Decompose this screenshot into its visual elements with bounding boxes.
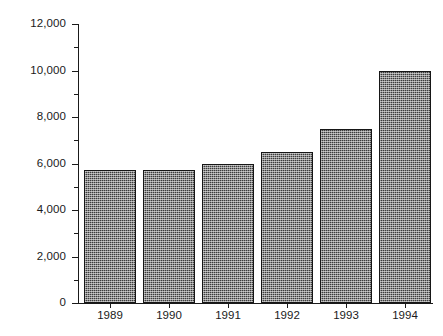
y-axis-tick xyxy=(72,303,79,304)
bar xyxy=(379,71,431,304)
y-axis-tick-label: 12,000 xyxy=(8,17,66,29)
bar xyxy=(143,170,195,303)
bar-series xyxy=(79,24,433,303)
x-axis-tick xyxy=(405,303,406,308)
x-axis-tick xyxy=(287,303,288,308)
bar xyxy=(320,129,372,303)
y-axis-tick-label: 2,000 xyxy=(8,250,66,262)
y-axis-tick xyxy=(72,24,79,25)
y-axis-tick-label: 8,000 xyxy=(8,110,66,122)
x-axis-tick-label: 1993 xyxy=(316,309,376,321)
y-axis-tick xyxy=(72,210,79,211)
x-axis-tick xyxy=(169,303,170,308)
y-axis-tick xyxy=(72,164,79,165)
y-axis-tick-label: 0 xyxy=(8,296,66,308)
x-axis-tick-label: 1994 xyxy=(375,309,435,321)
y-axis-tick xyxy=(72,117,79,118)
bar-chart: 02,0004,0006,0008,00010,00012,000 198919… xyxy=(0,0,443,336)
x-axis-tick xyxy=(346,303,347,308)
x-axis-tick xyxy=(110,303,111,308)
x-axis-tick xyxy=(228,303,229,308)
x-axis-tick-label: 1992 xyxy=(257,309,317,321)
bar xyxy=(84,170,136,303)
x-axis-tick-label: 1991 xyxy=(198,309,258,321)
y-axis-tick xyxy=(72,257,79,258)
x-axis-tick-label: 1989 xyxy=(80,309,140,321)
bar xyxy=(202,164,254,304)
y-axis-tick-label: 10,000 xyxy=(8,64,66,76)
y-axis-tick-label: 4,000 xyxy=(8,203,66,215)
bar xyxy=(261,152,313,303)
y-axis-tick xyxy=(72,71,79,72)
x-axis-line xyxy=(78,303,433,304)
y-axis-tick-label: 6,000 xyxy=(8,157,66,169)
x-axis-tick-label: 1990 xyxy=(139,309,199,321)
